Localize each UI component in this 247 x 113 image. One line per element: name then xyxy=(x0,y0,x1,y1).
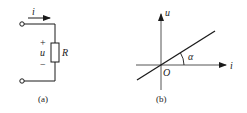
resistor-label: R xyxy=(61,47,68,58)
current-label: i xyxy=(32,6,35,17)
minus-sign: − xyxy=(40,59,46,70)
angle-arc-icon xyxy=(181,53,185,65)
u-axis-label: u xyxy=(165,7,170,18)
characteristic-line xyxy=(137,31,215,80)
diagram-canvas: i + u − R (a) u i O α (b) xyxy=(0,0,247,113)
resistor-symbol xyxy=(51,43,59,62)
ui-graph xyxy=(136,14,226,90)
top-terminal xyxy=(20,22,24,26)
caption-b: (b) xyxy=(156,94,167,104)
angle-label: α xyxy=(188,51,194,62)
voltage-label: u xyxy=(40,47,45,58)
caption-a: (a) xyxy=(38,94,48,104)
bottom-terminal xyxy=(20,79,24,83)
origin-label: O xyxy=(163,67,170,78)
i-axis-label: i xyxy=(230,60,233,71)
